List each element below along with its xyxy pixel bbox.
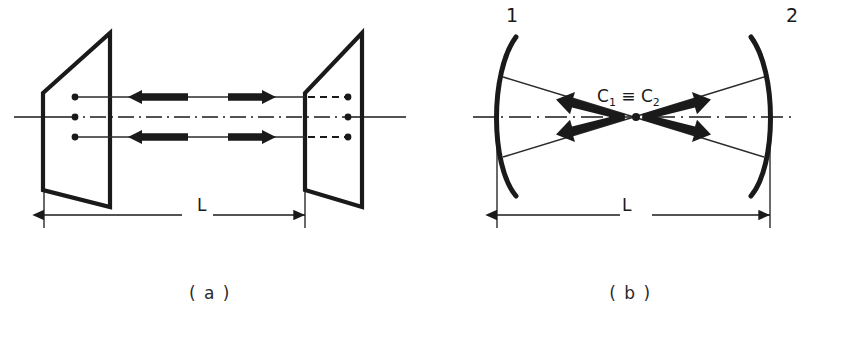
length-label-b: L bbox=[622, 195, 631, 215]
caption-panel-a: ( a ) bbox=[0, 283, 420, 303]
dimension-line-a bbox=[44, 192, 305, 228]
panel-a-plane-parallel-resonator: L ( a ) bbox=[0, 0, 420, 337]
mirror-1-label: 1 bbox=[506, 4, 518, 26]
caption-panel-b: ( b ) bbox=[420, 283, 841, 303]
mirror-right-plane-a bbox=[305, 33, 362, 207]
dimension-line-b bbox=[497, 135, 770, 228]
ray-origin-dots-left-a bbox=[72, 94, 79, 141]
panel-b-concentric-resonator: ( b ) bbox=[420, 0, 841, 337]
figure-root: L ( a ) bbox=[0, 0, 841, 337]
center-of-curvature-label: C1 ≡ C2 bbox=[597, 86, 660, 109]
mirror-2-label: 2 bbox=[786, 4, 798, 26]
ray-origin-dots-right-a bbox=[345, 94, 352, 141]
length-label-a: L bbox=[197, 195, 206, 215]
center-of-curvature-dot bbox=[632, 113, 640, 121]
